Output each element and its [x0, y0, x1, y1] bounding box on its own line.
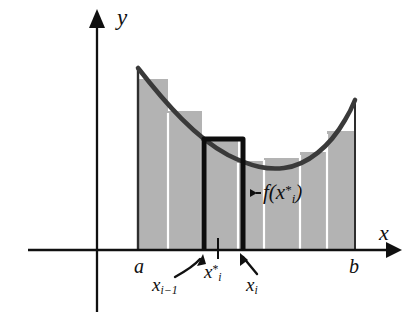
subinterval-left-subscript: i−1 — [160, 284, 177, 297]
function-value-open: f(x — [263, 180, 285, 204]
left-endpoint-label: a — [134, 256, 144, 276]
arrowhead-x-i — [240, 253, 248, 266]
y-axis-arrowhead — [89, 9, 105, 28]
sample-point-subscript: i — [218, 271, 221, 284]
function-value-label: f(x*i) — [263, 182, 302, 205]
bar-7 — [327, 131, 355, 250]
right-endpoint-label: b — [349, 256, 359, 276]
x-axis-label: x — [379, 222, 389, 244]
bar-1 — [138, 79, 168, 250]
subinterval-left-label: xi−1 — [152, 275, 178, 297]
y-axis-label: y — [117, 6, 127, 29]
riemann-sum-figure: y x a b xi−1 x*i xi f(x*i) — [0, 0, 410, 320]
function-value-close: ) — [295, 180, 302, 204]
bar-6 — [300, 152, 327, 250]
sample-point-label: x*i — [204, 262, 222, 284]
subinterval-right-subscript: i — [254, 284, 257, 297]
arrow-to-x-i-minus-1 — [175, 259, 200, 277]
subinterval-right-label: xi — [246, 275, 258, 297]
